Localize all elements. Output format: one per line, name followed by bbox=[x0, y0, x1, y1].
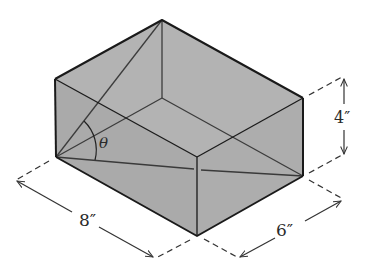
left-vertical-edge bbox=[55, 79, 56, 157]
width-label: 6″ bbox=[276, 220, 293, 240]
box-faces bbox=[55, 20, 303, 236]
box-diagram: θ 4″ 8″ 6″ bbox=[0, 0, 366, 276]
angle-label: θ bbox=[99, 134, 108, 152]
height-label: 4″ bbox=[334, 108, 350, 127]
length-label: 8″ bbox=[79, 210, 96, 230]
